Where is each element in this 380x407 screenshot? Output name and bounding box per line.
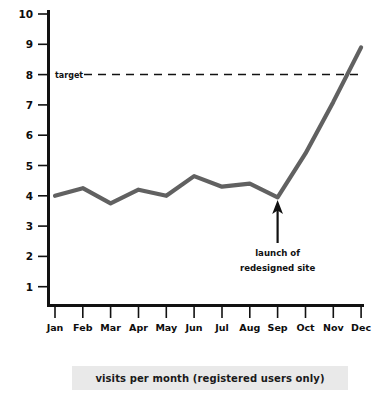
y-tick-label: 4 [26,190,33,202]
y-axis-ticks [38,14,48,287]
x-tick-label-nov: Nov [323,322,344,333]
y-tick-label: 8 [26,69,33,81]
y-tick-label: 5 [26,160,33,172]
y-tick-label: 10 [18,8,33,20]
chart-caption-bar: visits per month (registered users only) [72,366,348,390]
chart-caption-text: visits per month (registered users only) [95,373,324,384]
y-tick-label: 3 [26,220,33,232]
annotation-line-2: redesigned site [240,263,316,273]
x-tick-label-oct: Oct [296,322,315,333]
x-axis-tick-labels: Jan Feb Mar Apr May Jun Jul Aug Sep Oct … [46,322,371,333]
x-tick-label-may: May [155,322,178,333]
chart-container: 10 9 8 7 6 5 4 3 2 1 Jan [0,0,380,407]
x-tick-label-sep: Sep [268,322,288,333]
x-axis-ticks [55,307,361,318]
x-tick-label-mar: Mar [100,322,121,333]
y-tick-label: 2 [26,250,33,262]
x-tick-label-jun: Jun [185,322,203,333]
x-tick-label-dec: Dec [351,322,371,333]
x-tick-label-apr: Apr [129,322,148,333]
x-tick-label-jan: Jan [46,322,64,333]
annotation-line-1: launch of [255,248,300,258]
y-tick-label: 1 [26,281,33,293]
x-tick-label-feb: Feb [73,322,93,333]
line-chart-plot: 10 9 8 7 6 5 4 3 2 1 Jan [0,0,380,360]
y-tick-label: 7 [26,99,33,111]
y-tick-label: 9 [26,38,33,50]
y-axis-tick-labels: 10 9 8 7 6 5 4 3 2 1 [18,8,33,293]
x-tick-label-jul: Jul [214,322,229,333]
target-line-label: target [55,71,83,80]
launch-annotation-arrow [272,200,283,243]
data-series-line [55,47,361,203]
x-tick-label-aug: Aug [239,322,260,333]
y-tick-label: 6 [26,129,33,141]
